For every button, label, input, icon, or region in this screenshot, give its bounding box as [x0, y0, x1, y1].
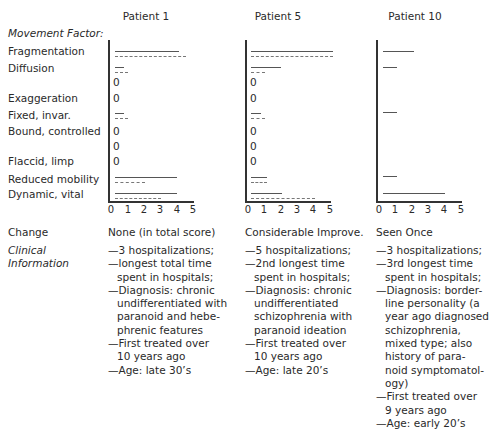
clinical-line: year ago diagnosed [376, 310, 489, 323]
clinical-line: line personality (a [376, 297, 489, 310]
zero-label-exaggeration: 0 [113, 92, 120, 104]
x-tick: 0 [243, 204, 253, 215]
x-tick: 1 [259, 204, 269, 215]
bar-solid-fixed [383, 112, 397, 113]
y-axis-line [376, 40, 378, 202]
clinical-line: —5 hospitalizations; [245, 244, 352, 257]
clinical-line: spent in hospitals; [376, 271, 489, 284]
patient-5-header: Patient 5 [218, 10, 338, 22]
bar-solid-reduced [383, 176, 397, 177]
clinical-line: —Age: early 20’s [376, 417, 489, 430]
change-value-patient-1: None (in total score) [108, 226, 215, 238]
bar-solid-dynamic [115, 193, 177, 194]
x-axis-line [108, 201, 194, 203]
zero-label: 0 [113, 140, 120, 152]
clinical-line: —Diagnosis: border- [376, 284, 489, 297]
clinical-line: —First treated over [376, 390, 489, 403]
x-tick: 4 [439, 204, 449, 215]
clinical-line: spent in hospitals; [108, 271, 227, 284]
clinical-line: schizophrenia with [245, 310, 352, 323]
bar-solid-dynamic [251, 193, 282, 194]
bar-dashed-diffusion [251, 72, 265, 73]
x-tick: 5 [456, 204, 466, 215]
patient-1-header: Patient 1 [86, 10, 206, 22]
clinical-line: —Age: late 20’s [245, 364, 352, 377]
bar-dashed-fragmentation [251, 56, 333, 57]
bar-dashed-reduced [115, 182, 145, 183]
zero-label-bound: 0 [250, 125, 257, 137]
bar-dashed-diffusion [115, 72, 128, 73]
bar-dashed-reduced [251, 182, 267, 183]
clinical-line: undifferentiated [245, 297, 352, 310]
row-label-diffusion: Diffusion [8, 62, 54, 74]
clinical-line: —3rd longest time [376, 257, 489, 270]
clinical-line: —3 hospitalizations; [376, 244, 489, 257]
bar-solid-reduced [251, 177, 267, 178]
zero-label: 0 [113, 76, 120, 88]
clinical-line: noid symptomatol- [376, 364, 489, 377]
clinical-line: 10 years ago [245, 350, 352, 363]
bar-solid-dynamic [383, 193, 445, 194]
row-label-bound: Bound, controlled [8, 125, 101, 137]
x-tick: 2 [139, 204, 149, 215]
bar-solid-fragmentation [383, 51, 414, 52]
x-tick: 3 [292, 204, 302, 215]
zero-label: 0 [250, 140, 257, 152]
x-tick: 3 [423, 204, 433, 215]
clinical-line: —3 hospitalizations; [108, 244, 227, 257]
x-axis-line [376, 201, 462, 203]
bar-solid-fragmentation [115, 51, 179, 52]
change-value-patient-5: Considerable Improve. [245, 226, 364, 238]
clinical-line: ogy) [376, 377, 489, 390]
clinical-info-patient-5: —5 hospitalizations; —2nd longest time s… [245, 244, 352, 377]
clinical-line: —Diagnosis: chronic [245, 284, 352, 297]
bar-solid-fragmentation [251, 51, 333, 52]
x-tick: 4 [172, 204, 182, 215]
bar-solid-diffusion [383, 67, 397, 68]
bar-solid-fixed [115, 113, 124, 114]
clinical-line: —Diagnosis: chronic [108, 284, 227, 297]
bar-solid-diffusion [115, 67, 124, 68]
row-label-dynamic: Dynamic, vital [8, 188, 84, 200]
x-tick: 3 [155, 204, 165, 215]
clinical-line: —2nd longest time [245, 257, 352, 270]
x-tick: 1 [390, 204, 400, 215]
row-label-fixed: Fixed, invar. [8, 109, 71, 121]
clinical-info-patient-1: —3 hospitalizations; —longest total time… [108, 244, 227, 377]
row-label-fragmentation: Fragmentation [8, 45, 85, 57]
clinical-label-line-1: Clinical [8, 244, 69, 257]
clinical-line: history of para- [376, 350, 489, 363]
movement-factor-label: Movement Factor: [8, 27, 104, 39]
y-axis-line [108, 40, 110, 202]
y-axis-line [245, 40, 247, 202]
x-tick: 2 [276, 204, 286, 215]
clinical-line: —Age: late 30’s [108, 364, 227, 377]
x-tick: 0 [374, 204, 384, 215]
row-label-exaggeration: Exaggeration [8, 92, 78, 104]
bar-solid-diffusion [251, 67, 281, 68]
clinical-line: 10 years ago [108, 350, 227, 363]
x-tick: 2 [407, 204, 417, 215]
zero-label-bound: 0 [113, 125, 120, 137]
zero-label: 0 [250, 76, 257, 88]
bar-dashed-fixed [115, 118, 128, 119]
clinical-line: mixed type; also [376, 337, 489, 350]
x-tick: 0 [106, 204, 116, 215]
clinical-line: spent in hospitals; [245, 271, 352, 284]
clinical-line: 9 years ago [376, 404, 489, 417]
zero-label-flaccid: 0 [113, 155, 120, 167]
clinical-line: paranoid ideation [245, 324, 352, 337]
bar-dashed-fixed [251, 118, 265, 119]
clinical-line: —First treated over [108, 337, 227, 350]
clinical-label-line-2: Information [8, 257, 69, 270]
zero-label-flaccid: 0 [250, 155, 257, 167]
x-tick: 5 [188, 204, 198, 215]
row-label-flaccid: Flaccid, limp [8, 155, 74, 167]
bar-dashed-dynamic [251, 198, 315, 199]
bar-solid-reduced [115, 177, 177, 178]
bar-dashed-fragmentation [115, 56, 186, 57]
clinical-line: phrenic features [108, 324, 227, 337]
bar-solid-fixed [251, 113, 261, 114]
zero-label-exaggeration: 0 [250, 92, 257, 104]
clinical-line: undifferentiated with [108, 297, 227, 310]
